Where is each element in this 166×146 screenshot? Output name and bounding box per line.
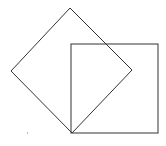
background xyxy=(0,0,166,146)
stray-mark xyxy=(27,132,28,134)
diagram-canvas xyxy=(0,0,166,146)
